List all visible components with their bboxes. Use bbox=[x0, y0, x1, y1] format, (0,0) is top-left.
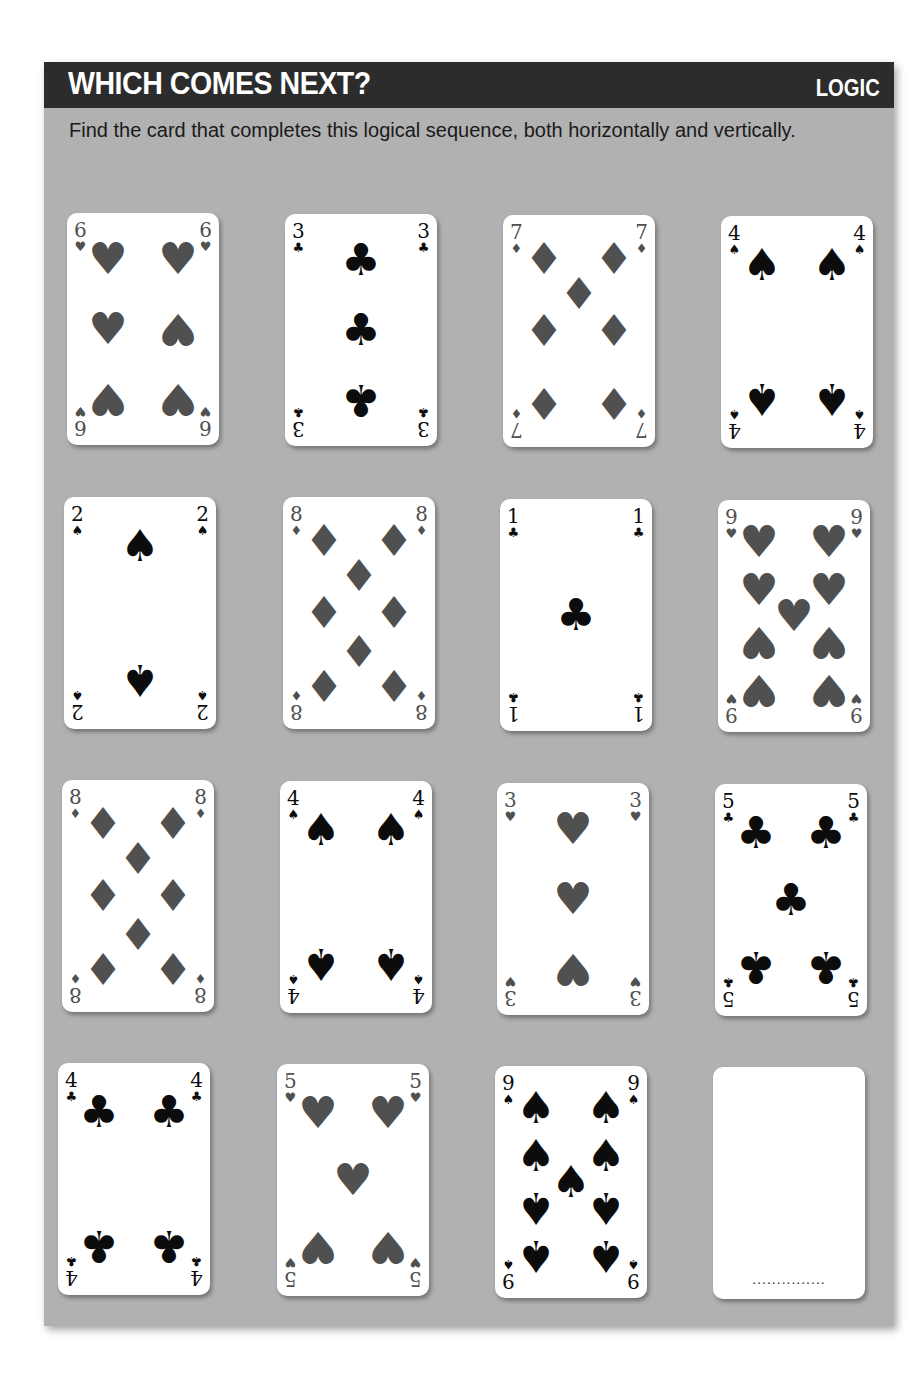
hearts-icon: ♥ bbox=[737, 520, 781, 564]
card-pips: ♣♣♣♣♣ bbox=[715, 784, 867, 1016]
diamonds-icon: ♦ bbox=[302, 663, 346, 707]
card-pips: ♥♥♥♥♥♥ bbox=[67, 213, 219, 445]
spades-icon: ♠ bbox=[810, 377, 854, 421]
spades-icon: ♠ bbox=[299, 942, 343, 986]
card-5-of-clubs[interactable]: 5♣5♣5♣5♣♣♣♣♣♣ bbox=[715, 784, 867, 1016]
puzzle-title: WHICH COMES NEXT? bbox=[68, 66, 371, 102]
diamonds-icon: ♦ bbox=[522, 309, 566, 353]
card-pips: ♣♣♣♣ bbox=[58, 1063, 210, 1295]
spades-icon: ♠ bbox=[369, 808, 413, 852]
card-pips: ♠♠ bbox=[64, 497, 216, 729]
clubs-icon: ♣ bbox=[147, 1224, 191, 1268]
diamonds-icon: ♦ bbox=[592, 381, 636, 425]
card-pips: ♣♣♣ bbox=[285, 214, 437, 446]
hearts-icon: ♥ bbox=[807, 668, 851, 712]
spades-icon: ♠ bbox=[299, 808, 343, 852]
clubs-icon: ♣ bbox=[734, 945, 778, 989]
clubs-icon: ♣ bbox=[77, 1224, 121, 1268]
card-9-of-spades[interactable]: 9♠9♠9♠9♠♠♠♠♠♠♠♠♠♠ bbox=[495, 1066, 647, 1298]
card-pips: ♦♦♦♦♦♦♦ bbox=[503, 215, 655, 447]
card-8-of-diamonds[interactable]: 8♦8♦8♦8♦♦♦♦♦♦♦♦♦ bbox=[283, 497, 435, 729]
card-pips: ♥♥♥ bbox=[497, 783, 649, 1015]
card-9-of-hearts[interactable]: 9♥9♥9♥9♥♥♥♥♥♥♥♥♥♥ bbox=[718, 500, 870, 732]
card-6-of-hearts[interactable]: 6♥6♥6♥6♥♥♥♥♥♥♥ bbox=[67, 213, 219, 445]
card-4-of-clubs[interactable]: 4♣4♣4♣4♣♣♣♣♣ bbox=[58, 1063, 210, 1295]
header-bar: WHICH COMES NEXT? LOGIC bbox=[44, 62, 894, 108]
card-pips: ♥♥♥♥♥♥♥♥♥ bbox=[718, 500, 870, 732]
diamonds-icon: ♦ bbox=[151, 946, 195, 990]
spades-icon: ♠ bbox=[514, 1186, 558, 1230]
clubs-icon: ♣ bbox=[804, 811, 848, 855]
hearts-icon: ♥ bbox=[551, 947, 595, 991]
card-3-of-clubs[interactable]: 3♣3♣3♣3♣♣♣♣ bbox=[285, 214, 437, 446]
clubs-icon: ♣ bbox=[339, 378, 383, 422]
card-pips: ♠♠♠♠ bbox=[280, 781, 432, 1013]
spades-icon: ♠ bbox=[584, 1234, 628, 1278]
hearts-icon: ♥ bbox=[86, 237, 130, 281]
card-pips: ♣ bbox=[500, 499, 652, 731]
spades-icon: ♠ bbox=[118, 658, 162, 702]
hearts-icon: ♥ bbox=[331, 1158, 375, 1202]
hearts-icon: ♥ bbox=[156, 237, 200, 281]
hearts-icon: ♥ bbox=[86, 377, 130, 421]
spades-icon: ♠ bbox=[369, 942, 413, 986]
card-3-of-hearts[interactable]: 3♥3♥3♥3♥♥♥♥ bbox=[497, 783, 649, 1015]
hearts-icon: ♥ bbox=[366, 1225, 410, 1269]
spades-icon: ♠ bbox=[740, 243, 784, 287]
answer-placeholder: ............... bbox=[713, 1271, 865, 1287]
spades-icon: ♠ bbox=[118, 524, 162, 568]
diamonds-icon: ♦ bbox=[592, 309, 636, 353]
card-pips: ♥♥♥♥♥ bbox=[277, 1064, 429, 1296]
hearts-icon: ♥ bbox=[737, 620, 781, 664]
spades-icon: ♠ bbox=[584, 1086, 628, 1130]
card-7-of-diamonds[interactable]: 7♦7♦7♦7♦♦♦♦♦♦♦♦ bbox=[503, 215, 655, 447]
clubs-icon: ♣ bbox=[804, 945, 848, 989]
card-4-of-spades[interactable]: 4♠4♠4♠4♠♠♠♠♠ bbox=[721, 216, 873, 448]
card-2-of-spades[interactable]: 2♠2♠2♠2♠♠♠ bbox=[64, 497, 216, 729]
hearts-icon: ♥ bbox=[551, 877, 595, 921]
hearts-icon: ♥ bbox=[737, 668, 781, 712]
clubs-icon: ♣ bbox=[339, 238, 383, 282]
card-4-of-spades[interactable]: 4♠4♠4♠4♠♠♠♠♠ bbox=[280, 781, 432, 1013]
diamonds-icon: ♦ bbox=[372, 663, 416, 707]
hearts-icon: ♥ bbox=[807, 620, 851, 664]
hearts-icon: ♥ bbox=[296, 1091, 340, 1135]
hearts-icon: ♥ bbox=[296, 1225, 340, 1269]
card-pips: ♦♦♦♦♦♦♦♦ bbox=[62, 780, 214, 1012]
card-5-of-hearts[interactable]: 5♥5♥5♥5♥♥♥♥♥♥ bbox=[277, 1064, 429, 1296]
card-8-of-diamonds[interactable]: 8♦8♦8♦8♦♦♦♦♦♦♦♦♦ bbox=[62, 780, 214, 1012]
spades-icon: ♠ bbox=[514, 1086, 558, 1130]
clubs-icon: ♣ bbox=[769, 878, 813, 922]
diamonds-icon: ♦ bbox=[81, 946, 125, 990]
clubs-icon: ♣ bbox=[77, 1090, 121, 1134]
clubs-icon: ♣ bbox=[339, 308, 383, 352]
hearts-icon: ♥ bbox=[86, 307, 130, 351]
clubs-icon: ♣ bbox=[554, 593, 598, 637]
spades-icon: ♠ bbox=[514, 1234, 558, 1278]
spades-icon: ♠ bbox=[810, 243, 854, 287]
category-label: LOGIC bbox=[816, 75, 880, 102]
card-pips: ♠♠♠♠♠♠♠♠♠ bbox=[495, 1066, 647, 1298]
answer-card-blank[interactable]: ............... bbox=[713, 1067, 865, 1299]
card-1-of-clubs[interactable]: 1♣1♣1♣1♣♣ bbox=[500, 499, 652, 731]
hearts-icon: ♥ bbox=[366, 1091, 410, 1135]
card-pips: ♦♦♦♦♦♦♦♦ bbox=[283, 497, 435, 729]
hearts-icon: ♥ bbox=[551, 807, 595, 851]
diamonds-icon: ♦ bbox=[522, 381, 566, 425]
spades-icon: ♠ bbox=[740, 377, 784, 421]
instructions-text: Find the card that completes this logica… bbox=[69, 119, 796, 142]
hearts-icon: ♥ bbox=[807, 520, 851, 564]
clubs-icon: ♣ bbox=[734, 811, 778, 855]
hearts-icon: ♥ bbox=[156, 377, 200, 421]
spades-icon: ♠ bbox=[584, 1186, 628, 1230]
card-pips: ♠♠♠♠ bbox=[721, 216, 873, 448]
hearts-icon: ♥ bbox=[156, 307, 200, 351]
clubs-icon: ♣ bbox=[147, 1090, 191, 1134]
